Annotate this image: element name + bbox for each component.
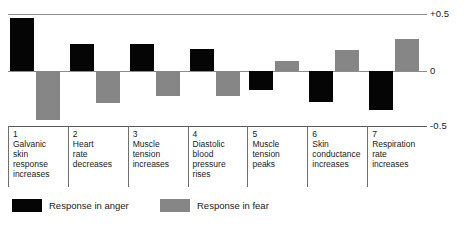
bar-anger [309,71,333,102]
category-text: Skin conductance increases [312,139,367,169]
category-label: 3Muscle tension increases [128,127,188,187]
axis-tick-label-positive-half: +0.5 [430,9,449,19]
bar-group [367,0,427,133]
category-text: Muscle tension increases [133,139,188,169]
bar-group [128,0,188,133]
category-number: 5 [252,129,307,139]
bar-anger [10,18,34,71]
legend-label-anger: Response in anger [49,199,129,212]
chart-container: +0.5 0 -0.5 1Galvanic skin response incr… [0,0,469,232]
plot-area: +0.5 0 -0.5 [0,0,469,133]
bar-fear [275,61,299,71]
category-label: 2Heart rate decreases [68,127,128,187]
bar-group [247,0,307,133]
chart-legend: Response in anger Response in fear [8,199,427,219]
legend-swatch-fear [160,199,190,212]
legend-item-fear: Response in fear [160,199,269,212]
category-text: Muscle tension peaks [252,139,307,169]
bar-group [188,0,248,133]
bar-fear [395,39,419,71]
legend-swatch-anger [12,199,42,212]
bar-group [68,0,128,133]
bar-fear [96,71,120,103]
bar-anger [190,49,214,71]
category-number: 2 [73,129,128,139]
category-text: Diastolic blood pressure rises [193,139,248,179]
category-text: Heart rate decreases [73,139,128,169]
bar-fear [156,71,180,96]
bars-layer [8,0,427,133]
bar-anger [70,44,94,71]
category-number: 7 [372,129,427,139]
category-text: Galvanic skin response increases [13,139,68,179]
bar-fear [216,71,240,96]
category-number: 6 [312,129,367,139]
category-text: Respiration rate increases [372,139,427,169]
category-label: 4Diastolic blood pressure rises [188,127,248,187]
category-label: 6Skin conductance increases [307,127,367,187]
bar-group [8,0,68,133]
axis-tick-label-negative-half: -0.5 [430,121,447,131]
bar-fear [335,50,359,71]
bar-anger [130,44,154,71]
category-number: 3 [133,129,188,139]
category-labels: 1Galvanic skin response increases2Heart … [8,127,427,187]
legend-label-fear: Response in fear [197,199,269,212]
bar-anger [249,71,273,90]
axis-tick-label-zero: 0 [430,66,435,76]
bar-group [307,0,367,133]
category-number: 4 [193,129,248,139]
category-label: 1Galvanic skin response increases [8,127,68,187]
bar-fear [36,71,60,120]
bar-anger [369,71,393,110]
legend-item-anger: Response in anger [12,199,129,212]
category-label: 5Muscle tension peaks [247,127,307,187]
category-label: 7Respiration rate increases [367,127,427,187]
category-number: 1 [13,129,68,139]
